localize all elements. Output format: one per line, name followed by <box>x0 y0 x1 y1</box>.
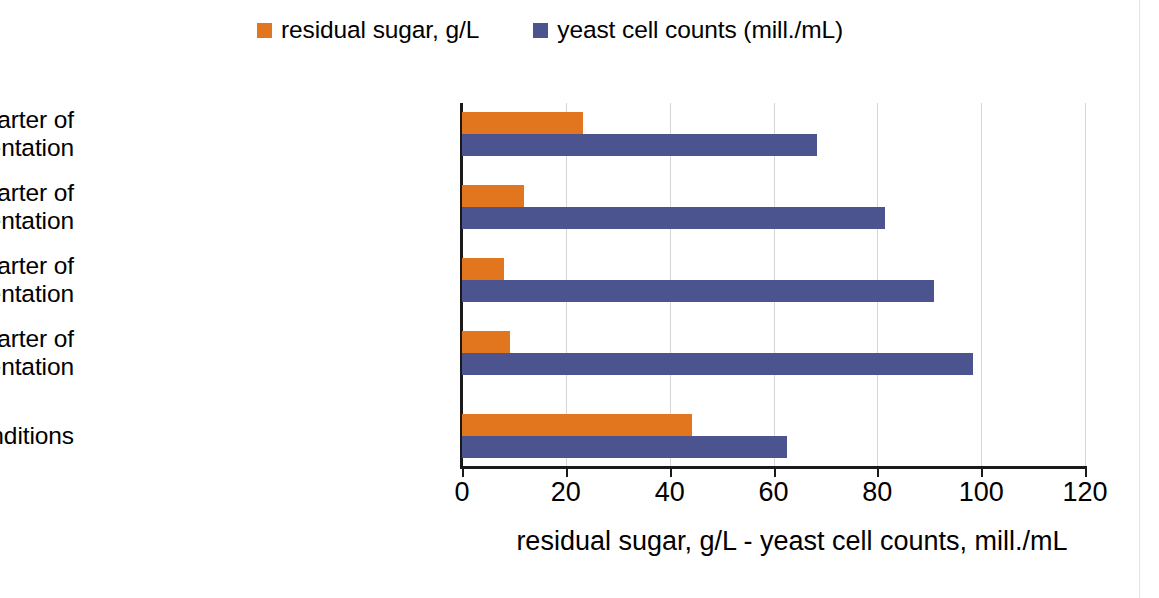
x-axis-tick-mark <box>877 466 879 477</box>
bar-residual-sugar <box>462 185 524 207</box>
legend-item-yeast-cell-counts: yeast cell counts (mill./mL) <box>533 18 843 43</box>
gridline <box>981 103 982 466</box>
bar-residual-sugar <box>462 414 692 436</box>
x-axis-tick-mark <box>566 466 568 477</box>
legend-label-residual-sugar: residual sugar, g/L <box>281 18 479 43</box>
category-label-line: oxygenation in the 4th quarter of <box>0 106 74 134</box>
category-label-line: fermentation <box>0 353 74 381</box>
plot-area: 020406080100120 <box>462 103 1085 466</box>
legend-swatch-icon-yeast-cell-counts <box>533 23 548 38</box>
bar-residual-sugar <box>462 331 510 353</box>
gridline <box>1085 103 1086 466</box>
x-axis-tick-mark <box>981 466 983 477</box>
category-label-line: oxygenation in the 1st quarter of <box>0 325 74 353</box>
legend-label-yeast-cell-counts: yeast cell counts (mill./mL) <box>557 18 843 43</box>
x-axis-tick-mark <box>670 466 672 477</box>
x-axis-tick-mark <box>462 466 464 477</box>
category-label-line: inert conditions <box>0 422 74 450</box>
bar-yeast-cell-counts <box>462 134 817 156</box>
category-label: inert conditions <box>0 422 74 450</box>
legend-item-residual-sugar: residual sugar, g/L <box>257 18 479 43</box>
category-label-line: oxygenation in the 3rd quarter of <box>0 179 74 207</box>
category-label-line: fermentation <box>0 207 74 235</box>
category-label: oxygenation in the 4th quarter offerment… <box>0 106 74 162</box>
category-label: oxygenation in the 2nd quarter offerment… <box>0 252 74 308</box>
x-axis-tick-label: 20 <box>551 479 581 506</box>
x-axis-tick-label: 80 <box>862 479 892 506</box>
x-axis-tick-label: 0 <box>454 479 469 506</box>
category-label: oxygenation in the 1st quarter offerment… <box>0 325 74 381</box>
bar-yeast-cell-counts <box>462 207 885 229</box>
category-label: oxygenation in the 3rd quarter offerment… <box>0 179 74 235</box>
x-axis-tick-mark <box>1085 466 1087 477</box>
bar-chart: residual sugar, g/L yeast cell counts (m… <box>0 0 1159 598</box>
bar-yeast-cell-counts <box>462 353 973 375</box>
bar-residual-sugar <box>462 258 504 280</box>
x-axis-tick-mark <box>774 466 776 477</box>
bar-yeast-cell-counts <box>462 280 934 302</box>
bar-yeast-cell-counts <box>462 436 787 458</box>
x-axis-tick-label: 60 <box>758 479 788 506</box>
category-label-line: oxygenation in the 2nd quarter of <box>0 252 74 280</box>
x-axis-tick-label: 40 <box>655 479 685 506</box>
x-axis-title: residual sugar, g/L - yeast cell counts,… <box>462 528 1122 555</box>
x-axis-tick-label: 100 <box>959 479 1004 506</box>
category-label-line: fermentation <box>0 280 74 308</box>
chart-legend: residual sugar, g/L yeast cell counts (m… <box>0 18 1100 43</box>
bar-residual-sugar <box>462 112 583 134</box>
page-scan-edge <box>1139 0 1140 598</box>
legend-swatch-icon-residual-sugar <box>257 23 272 38</box>
x-axis-tick-label: 120 <box>1062 479 1107 506</box>
category-label-line: fermentation <box>0 134 74 162</box>
